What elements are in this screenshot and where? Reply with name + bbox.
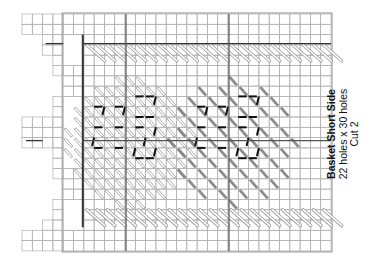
caption-title: Basket Short Side — [326, 89, 338, 179]
caption-text: Basket Short Side 22 holes x 30 holes Cu… — [326, 89, 361, 179]
needlepoint-chart — [0, 0, 371, 271]
caption-cut: Cut 2 — [349, 89, 361, 179]
notched-left-edge — [63, 35, 84, 231]
